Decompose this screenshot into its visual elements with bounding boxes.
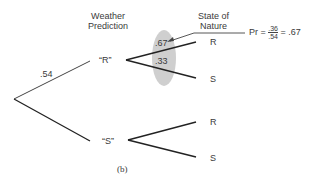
prob-S-given-R: .33 [155, 56, 168, 66]
header-line: Nature [198, 21, 229, 31]
branch-root-to-R [14, 61, 90, 99]
header-weather-prediction: Weather Prediction [88, 11, 128, 31]
outcome-S-R: R [210, 117, 217, 127]
header-line: Prediction [88, 21, 128, 31]
annotation-suffix: = .67 [281, 27, 301, 37]
fraction: .36 .54 [268, 25, 278, 40]
outcome-R-R: R [210, 37, 217, 47]
branch-S-to-R [128, 122, 196, 140]
header-line: State of [198, 11, 229, 21]
header-state-of-nature: State of Nature [198, 11, 229, 31]
prob-R-given-R: .67 [155, 38, 168, 48]
prediction-R-label: “R” [99, 55, 112, 65]
outcome-S-S: S [210, 153, 216, 163]
fraction-numerator: .36 [268, 25, 278, 33]
branch-S-to-S [128, 140, 196, 157]
prediction-S-label: “S” [102, 136, 114, 146]
annotation-prefix: Pr = [249, 27, 266, 37]
branch-root-to-S [14, 99, 90, 141]
header-line: Weather [88, 11, 128, 21]
probability-annotation: Pr = .36 .54 = .67 [249, 25, 301, 40]
fraction-denominator: .54 [268, 33, 278, 40]
root-branch-prob: .54 [40, 69, 53, 79]
figure-caption: (b) [117, 164, 128, 174]
outcome-R-S: S [210, 74, 216, 84]
